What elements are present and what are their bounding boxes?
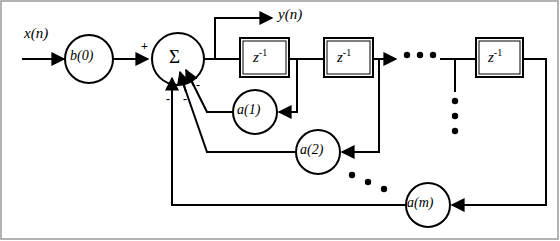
- summation-label: Σ: [169, 46, 180, 68]
- tap-to-am-line: [454, 59, 546, 205]
- minus-sign-3-label: -: [166, 92, 170, 107]
- delay-1-exponent: -1: [259, 47, 267, 58]
- minus-sign-1-label: -: [196, 78, 200, 93]
- gain-b0-label: b(0): [70, 48, 93, 64]
- gain-am-label: a(m): [407, 195, 433, 211]
- horizontal-ellipsis-delay-chain: [404, 52, 436, 58]
- vertical-ellipsis-taps: [452, 98, 458, 134]
- diagram-canvas: x(n) y(n) b(0) Σ + - - - z-1 z-1 z-1 a(1…: [0, 0, 560, 241]
- delay-2-exponent: -1: [343, 47, 351, 58]
- gain-a1-label: a(1): [237, 102, 260, 118]
- input-signal-label: x(n): [24, 25, 48, 42]
- minus-sign-2-label: -: [183, 92, 187, 107]
- delay-2-label: z-1: [337, 47, 351, 66]
- gain-a2-label: a(2): [300, 142, 323, 158]
- delay-m-label: z-1: [488, 47, 502, 66]
- am-to-sum-line: [172, 86, 406, 205]
- delay-m-exponent: -1: [494, 47, 502, 58]
- diagram-vector-layer: [0, 0, 560, 241]
- delay-1-label: z-1: [253, 47, 267, 66]
- diagonal-ellipsis-feedback: [349, 172, 387, 192]
- plus-sign-label: +: [141, 39, 148, 54]
- output-signal-label: y(n): [278, 6, 302, 23]
